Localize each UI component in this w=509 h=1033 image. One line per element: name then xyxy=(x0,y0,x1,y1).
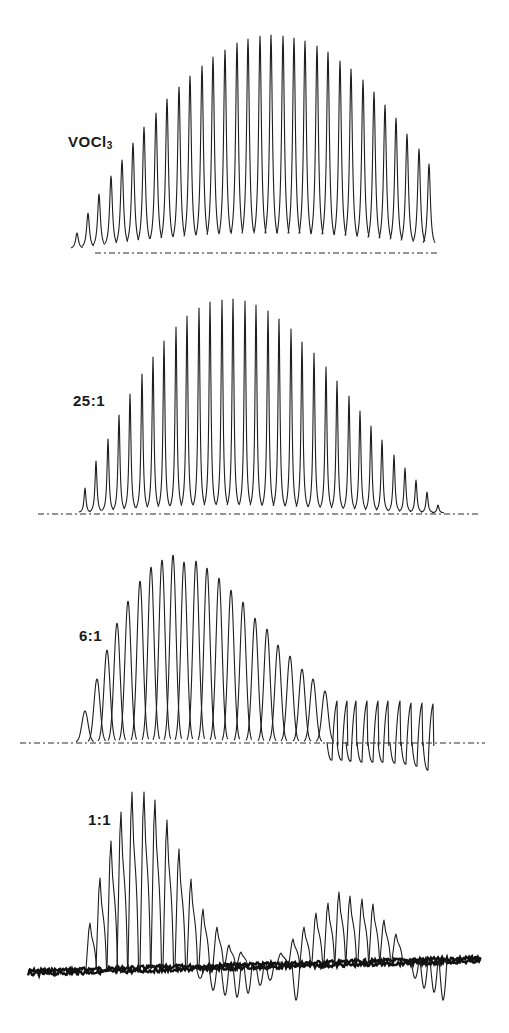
spectral-peak xyxy=(410,480,422,512)
spectral-peak-group2 xyxy=(346,896,357,962)
spectral-peak xyxy=(181,316,193,506)
spectral-peak xyxy=(354,411,366,509)
spectral-peak xyxy=(296,342,308,507)
negative-dip xyxy=(292,963,300,1000)
spectrum-panel-6-1 xyxy=(20,555,485,770)
spectral-peak xyxy=(161,99,173,238)
dispersive-line xyxy=(423,704,434,770)
spectral-peak xyxy=(153,560,171,739)
spectral-peak-group1 xyxy=(107,841,118,969)
label-main: VOCl xyxy=(68,133,107,150)
spectral-peak-group1 xyxy=(163,820,174,967)
spectral-peak-group2 xyxy=(324,903,335,962)
spectral-peak-group1 xyxy=(175,849,186,967)
spectral-peak-group2 xyxy=(312,913,323,963)
spectral-peak xyxy=(322,52,334,235)
spectral-peak xyxy=(173,87,185,237)
spectra-figure xyxy=(0,0,509,1033)
spectral-peak xyxy=(227,299,239,505)
spectral-peak-group2 xyxy=(358,899,369,961)
spectral-peak xyxy=(390,118,402,239)
spectral-peak xyxy=(90,461,102,511)
spectral-peak xyxy=(299,41,311,234)
spectral-peak xyxy=(242,39,254,234)
spectral-peak xyxy=(127,143,139,241)
spectral-peak xyxy=(231,43,243,234)
spectral-peak xyxy=(376,440,388,510)
panel-label-1-1: 1:1 xyxy=(88,812,111,827)
panel-label-25-1: 25:1 xyxy=(73,393,105,408)
label-subscript: 3 xyxy=(107,140,113,151)
spectral-peak xyxy=(277,36,289,233)
spectral-peak xyxy=(343,396,355,509)
spectral-peak xyxy=(82,213,94,246)
spectral-peak xyxy=(388,455,400,511)
spectral-peak xyxy=(399,468,411,511)
spectrum-panel-vocl3 xyxy=(71,35,440,253)
spectral-peak xyxy=(413,149,425,242)
spectral-peak-group1 xyxy=(151,800,162,967)
spectral-peak xyxy=(254,36,266,233)
spectral-peak xyxy=(184,76,196,236)
spectral-peak xyxy=(258,629,276,741)
spectral-peak-group2 xyxy=(380,920,391,961)
spectral-peak xyxy=(262,311,274,506)
spectral-peak xyxy=(316,691,334,741)
label-main: 6:1 xyxy=(79,627,102,644)
label-main: 1:1 xyxy=(88,811,111,828)
spectral-peak xyxy=(204,302,216,505)
dispersive-line xyxy=(327,701,338,760)
spectral-peak xyxy=(320,367,332,508)
spectral-peak xyxy=(239,301,251,505)
spectral-peak-group1 xyxy=(213,927,224,966)
spectral-peak xyxy=(147,357,159,507)
spectral-peak xyxy=(193,308,205,505)
spectral-peak xyxy=(136,374,148,508)
dispersive-line xyxy=(337,701,348,760)
spectral-peak xyxy=(273,319,285,506)
spectral-peak xyxy=(158,341,170,507)
spectral-peak xyxy=(365,426,377,510)
spectral-peak-group1 xyxy=(199,909,210,966)
spectral-peak xyxy=(79,488,91,512)
spectral-peak-group2 xyxy=(392,934,403,960)
spectral-peak-group1 xyxy=(86,923,97,969)
spectral-peak xyxy=(102,439,114,510)
dispersive-line xyxy=(378,701,389,762)
spectral-peak xyxy=(207,57,219,235)
spectral-peak xyxy=(331,381,343,508)
spectral-peak xyxy=(164,555,182,739)
spectral-peak xyxy=(219,50,231,234)
spectral-peak xyxy=(421,492,433,512)
spectral-peak xyxy=(368,92,380,238)
spectral-peak xyxy=(113,415,125,509)
spectral-peak-group2 xyxy=(335,892,346,962)
spectral-peak xyxy=(345,69,357,236)
spectral-peak xyxy=(142,567,160,740)
dispersive-line xyxy=(412,703,423,766)
spectral-peak xyxy=(401,134,413,241)
dispersive-line xyxy=(401,703,412,764)
dispersive-line xyxy=(368,701,379,762)
spectral-peak-group1 xyxy=(140,792,151,968)
spectral-peak xyxy=(288,38,300,234)
spectral-peak xyxy=(170,327,182,506)
spectral-peak xyxy=(311,46,323,234)
spectral-peak xyxy=(379,105,391,238)
spectral-peak xyxy=(423,164,435,243)
spectral-peak xyxy=(357,80,369,237)
spectral-peak xyxy=(105,176,117,244)
spectral-peak-group2 xyxy=(369,904,380,961)
spectral-peak xyxy=(293,669,311,741)
dispersive-line xyxy=(390,701,401,763)
label-main: 25:1 xyxy=(73,392,105,409)
spectral-peak xyxy=(334,61,346,235)
spectral-peak xyxy=(432,505,444,513)
spectral-peak xyxy=(93,194,105,245)
spectral-peak-group1 xyxy=(128,792,139,968)
spectral-peak xyxy=(216,300,228,505)
panel-label-vocl3: VOCl3 xyxy=(68,134,113,151)
spectral-peak xyxy=(108,623,126,740)
panel-label-6-1: 6:1 xyxy=(79,628,102,643)
spectral-peak xyxy=(250,305,262,505)
